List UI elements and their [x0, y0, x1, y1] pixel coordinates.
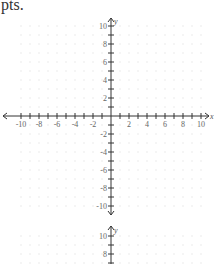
grid-dot: [156, 71, 157, 72]
grid-dot: [75, 170, 76, 171]
grid-dot: [57, 134, 58, 135]
grid-dot: [129, 152, 130, 153]
graph2-y-tick-label: 10: [99, 232, 107, 241]
grid-dot: [183, 254, 184, 255]
grid-dot: [201, 170, 202, 171]
grid-dot: [156, 44, 157, 45]
grid-dot: [48, 179, 49, 180]
grid-dot: [84, 62, 85, 63]
grid-dot: [30, 134, 31, 135]
grid-dot: [66, 206, 67, 207]
grid-dot: [174, 206, 175, 207]
grid-dot: [156, 245, 157, 246]
grid-dot: [147, 62, 148, 63]
grid-dot: [138, 107, 139, 108]
grid-dot: [120, 98, 121, 99]
grid-dot: [39, 44, 40, 45]
grid-dot: [84, 53, 85, 54]
grid-dot: [138, 263, 139, 264]
grid-dot: [39, 35, 40, 36]
grid-dot: [147, 245, 148, 246]
grid-dot: [75, 62, 76, 63]
grid-dot: [66, 26, 67, 27]
grid-dot: [156, 188, 157, 189]
grid-dot: [84, 107, 85, 108]
grid-dot: [66, 188, 67, 189]
grid-dot: [165, 98, 166, 99]
grid-dot: [183, 152, 184, 153]
grid-dot: [48, 35, 49, 36]
grid-dot: [84, 179, 85, 180]
grid-dot: [129, 134, 130, 135]
grid-dot: [30, 98, 31, 99]
coordinate-plane[interactable]: -10-8-6-4-2246810108642-2-4-6-8-10xy108y: [0, 0, 214, 264]
grid-dot: [102, 263, 103, 264]
grid-dot: [183, 26, 184, 27]
grid-dot: [21, 89, 22, 90]
grid-dot: [57, 188, 58, 189]
grid-dot: [30, 143, 31, 144]
grid-dot: [66, 107, 67, 108]
grid-dot: [30, 263, 31, 264]
grid-dot: [183, 98, 184, 99]
y-tick-label: 6: [103, 58, 107, 67]
grid-dot: [21, 170, 22, 171]
grid-dot: [192, 62, 193, 63]
grid-dot: [39, 179, 40, 180]
grid-dot: [30, 236, 31, 237]
grid-dot: [201, 80, 202, 81]
grid-dot: [147, 134, 148, 135]
grid-dot: [93, 197, 94, 198]
grid-dot: [48, 134, 49, 135]
grid-dot: [147, 179, 148, 180]
grid-dot: [57, 179, 58, 180]
grid-dot: [156, 161, 157, 162]
grid-dot: [138, 188, 139, 189]
grid-dot: [129, 206, 130, 207]
grid-dot: [102, 179, 103, 180]
grid-dot: [183, 89, 184, 90]
grid-dot: [30, 89, 31, 90]
grid-dot: [156, 254, 157, 255]
grid-dot: [201, 263, 202, 264]
grid-dot: [39, 107, 40, 108]
grid-dot: [66, 44, 67, 45]
grid-dot: [192, 188, 193, 189]
grid-dot: [39, 254, 40, 255]
graph2-y-axis-label: y: [113, 226, 118, 235]
grid-dot: [48, 98, 49, 99]
grid-dot: [93, 71, 94, 72]
grid-dot: [93, 98, 94, 99]
grid-dot: [57, 80, 58, 81]
grid-dot: [201, 179, 202, 180]
grid-dot: [192, 179, 193, 180]
grid-dot: [138, 26, 139, 27]
grid-dot: [66, 236, 67, 237]
grid-dot: [57, 170, 58, 171]
grid-dot: [129, 188, 130, 189]
grid-dot: [75, 107, 76, 108]
grid-dot: [30, 179, 31, 180]
grid-dot: [165, 254, 166, 255]
grid-dot: [93, 170, 94, 171]
grid-dot: [201, 254, 202, 255]
grid-dot: [192, 245, 193, 246]
grid-dot: [183, 206, 184, 207]
grid-dot: [138, 197, 139, 198]
grid-dot: [201, 62, 202, 63]
grid-dot: [66, 245, 67, 246]
grid-dot: [120, 197, 121, 198]
grid-dot: [156, 206, 157, 207]
grid-dot: [39, 197, 40, 198]
grid-dot: [147, 107, 148, 108]
grid-dot: [48, 44, 49, 45]
grid-dot: [102, 35, 103, 36]
grid-dot: [120, 254, 121, 255]
graph2-y-tick-label: 8: [103, 250, 107, 259]
grid-dot: [183, 161, 184, 162]
grid-dot: [192, 98, 193, 99]
grid-dot: [75, 53, 76, 54]
grid-dot: [138, 152, 139, 153]
y-tick-label: -8: [100, 184, 107, 193]
grid-dot: [66, 71, 67, 72]
